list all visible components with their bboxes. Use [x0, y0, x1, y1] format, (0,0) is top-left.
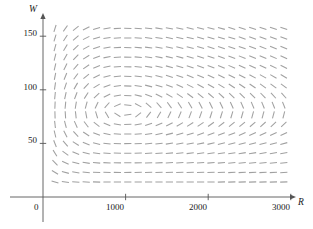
field-segment: [270, 162, 277, 163]
field-segment: [220, 102, 223, 109]
field-segment: [218, 46, 225, 48]
field-segment: [176, 153, 183, 154]
field-segment: [260, 65, 267, 68]
field-segment: [178, 111, 181, 118]
field-segment: [228, 153, 235, 154]
field-segment: [270, 27, 277, 29]
field-segment: [252, 111, 254, 118]
field-segment: [52, 181, 59, 183]
field-segment: [187, 122, 193, 126]
y-tick-label-150: 150: [15, 29, 37, 38]
field-segment: [280, 27, 287, 29]
field-segment: [208, 84, 214, 88]
field-segment: [64, 121, 66, 128]
field-segment: [86, 111, 87, 118]
field-segment: [187, 133, 194, 135]
field-segment: [249, 37, 256, 39]
field-segment: [176, 47, 183, 49]
field-segment: [207, 153, 214, 154]
field-segment: [208, 122, 214, 126]
field-segment: [93, 46, 100, 48]
field-segment: [72, 152, 79, 155]
field-segment: [262, 102, 265, 109]
field-segment: [84, 93, 88, 99]
field-segment: [187, 28, 194, 30]
field-segment: [73, 55, 78, 60]
field-segment: [166, 85, 173, 88]
field-segment: [218, 153, 225, 154]
field-segment: [156, 76, 163, 78]
field-segment: [260, 133, 267, 136]
field-segment: [63, 25, 67, 31]
field-segment: [157, 112, 161, 118]
field-segment: [64, 131, 67, 137]
field-segment: [93, 27, 100, 29]
field-segment: [228, 133, 235, 136]
field-segment: [73, 45, 78, 50]
field-segment: [280, 172, 287, 173]
field-segment: [187, 84, 193, 87]
field-segment: [187, 75, 194, 78]
field-segment: [208, 133, 215, 135]
field-segment: [74, 121, 77, 128]
field-segment: [240, 93, 245, 98]
field-segment: [239, 56, 246, 59]
field-segment: [114, 113, 120, 117]
field-segment: [208, 37, 215, 39]
y-axis-label: W: [29, 5, 37, 15]
field-segment: [176, 37, 183, 39]
field-segment: [249, 75, 255, 78]
field-segment: [229, 75, 235, 78]
field-segment: [83, 36, 89, 39]
field-segment: [239, 143, 246, 145]
field-segment: [250, 93, 255, 98]
field-segment: [228, 56, 235, 59]
field-segment: [62, 181, 69, 182]
field-segment: [62, 151, 68, 155]
field-segment: [168, 112, 171, 118]
field-segment: [176, 143, 183, 144]
field-segment: [250, 122, 255, 127]
field-segment: [93, 65, 100, 68]
field-segment: [249, 46, 256, 49]
field-segment: [231, 111, 233, 118]
field-segment: [218, 56, 225, 58]
field-segment: [65, 102, 66, 109]
field-segment: [197, 133, 204, 135]
field-segment: [54, 140, 57, 147]
field-segment: [280, 143, 287, 145]
field-segment: [239, 84, 245, 88]
field-segment: [72, 162, 79, 164]
field-segment: [74, 92, 77, 99]
field-segment: [155, 47, 162, 48]
field-segment: [93, 133, 100, 136]
field-segment: [73, 142, 79, 146]
field-segment: [197, 28, 204, 30]
field-segment: [135, 38, 142, 39]
field-segment: [197, 143, 204, 144]
field-segment: [197, 47, 204, 49]
field-segment: [187, 56, 194, 58]
field-segment: [176, 75, 183, 77]
x-tick-label-2000: 2000: [189, 203, 207, 212]
field-segment: [241, 102, 244, 109]
field-segment: [177, 85, 184, 88]
field-segment: [53, 150, 57, 156]
field-segment: [103, 37, 110, 38]
field-segment: [54, 54, 56, 61]
field-segment: [270, 56, 277, 59]
field-segment: [114, 124, 121, 125]
field-segment: [270, 143, 277, 145]
field-segment: [103, 133, 110, 134]
field-segment: [239, 122, 245, 127]
y-axis-arrowhead: [40, 13, 45, 19]
field-segment: [75, 111, 76, 118]
field-segment: [239, 75, 245, 78]
field-segment: [155, 66, 162, 68]
field-segment: [188, 102, 192, 108]
field-segment: [74, 74, 78, 80]
field-segment: [94, 84, 100, 88]
field-segment: [189, 111, 192, 118]
field-segment: [64, 83, 66, 90]
field-segment: [83, 172, 90, 173]
